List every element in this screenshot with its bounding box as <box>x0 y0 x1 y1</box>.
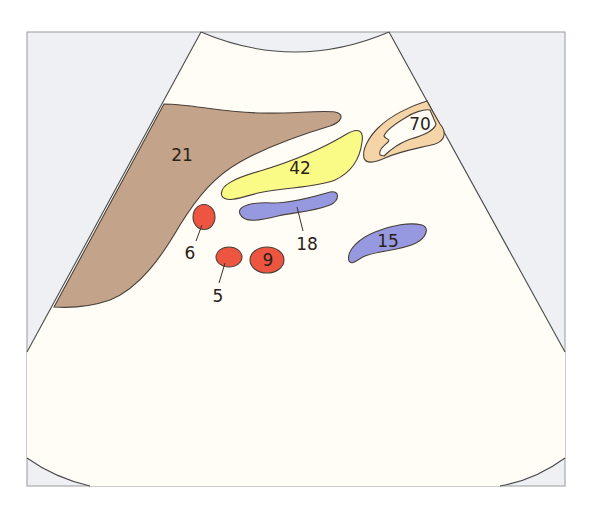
label-70: 70 <box>409 114 431 134</box>
label-6: 6 <box>185 243 196 263</box>
structure-6 <box>193 205 215 230</box>
label-21: 21 <box>171 145 193 165</box>
label-18: 18 <box>296 234 318 254</box>
label-42: 42 <box>289 158 311 178</box>
ultrasound-diagram: 21 42 70 18 15 6 5 9 <box>0 0 595 514</box>
structure-5 <box>216 247 242 267</box>
label-5: 5 <box>213 286 224 306</box>
label-9: 9 <box>263 250 274 270</box>
label-15: 15 <box>377 231 399 251</box>
